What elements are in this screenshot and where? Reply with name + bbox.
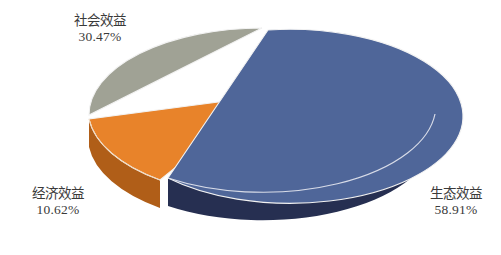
pie-label-economic: 经济效益 10.62% bbox=[6, 186, 110, 218]
pie-label-ecological-name: 生态效益 bbox=[404, 186, 501, 202]
pie-chart-figure: 社会效益 30.47% 经济效益 10.62% 生态效益 58.91% bbox=[0, 0, 501, 255]
pie-label-ecological: 生态效益 58.91% bbox=[404, 186, 501, 218]
pie-label-economic-value: 10.62% bbox=[6, 202, 110, 218]
pie-label-social-value: 30.47% bbox=[48, 29, 152, 45]
pie-slice-ecological[interactable] bbox=[168, 29, 463, 203]
pie-label-social: 社会效益 30.47% bbox=[48, 13, 152, 45]
pie-label-social-name: 社会效益 bbox=[48, 13, 152, 29]
pie-label-ecological-value: 58.91% bbox=[404, 202, 501, 218]
pie-label-economic-name: 经济效益 bbox=[6, 186, 110, 202]
